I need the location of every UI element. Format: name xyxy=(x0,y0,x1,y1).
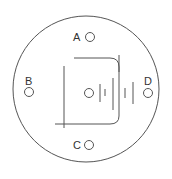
electrode-a-circle xyxy=(86,33,95,42)
electrode-a: A xyxy=(73,31,95,43)
electrode-d-label: D xyxy=(144,75,152,87)
electrode-d: D xyxy=(144,75,153,98)
electrode-d-circle xyxy=(144,89,153,98)
electrode-diagram: A B D C xyxy=(0,0,172,179)
electrode-c-label: C xyxy=(73,139,81,151)
electrode-b-circle xyxy=(25,88,34,97)
battery-symbol-icon xyxy=(100,78,133,110)
electrode-c: C xyxy=(73,139,94,151)
electrode-b-label: B xyxy=(25,75,32,87)
electrode-b: B xyxy=(25,75,34,97)
center-electrode-circle xyxy=(85,89,94,98)
electrode-a-label: A xyxy=(73,31,81,43)
circuit-wire-path xyxy=(55,58,119,124)
electrode-c-circle xyxy=(85,141,94,150)
